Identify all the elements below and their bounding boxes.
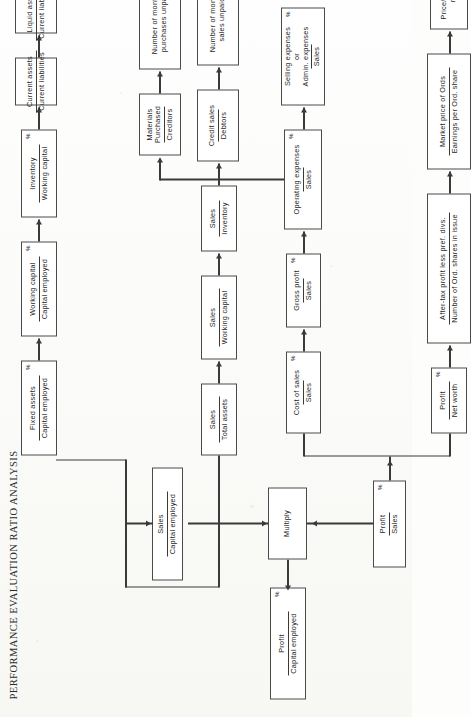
- percent-sign: %: [24, 133, 31, 139]
- numerator: Working capital: [29, 260, 38, 318]
- arrow-right: [216, 253, 222, 258]
- numerator: Sales: [157, 512, 166, 536]
- node-months-purchases-unpaid[interactable]: Number of months' purchases unpaid: [139, 0, 181, 69]
- connector-profit-sales-up: [303, 432, 304, 456]
- numerator: Profit: [379, 512, 388, 535]
- percent-sign: %: [289, 257, 296, 263]
- numerator: Cost of sales: [293, 367, 302, 416]
- node-current-assets-current-liabilities[interactable]: Current assets Current liabilities: [15, 57, 57, 105]
- denominator: Number of Ord. shares in issue: [449, 212, 460, 324]
- percent-sign: %: [289, 355, 296, 361]
- arrow-right: [301, 231, 307, 236]
- denominator: Net worth: [449, 381, 460, 418]
- arrow-right: [387, 460, 393, 465]
- denominator: Sales: [389, 512, 400, 536]
- node-profit-capital-employed[interactable]: % Profit Capital employed: [270, 587, 306, 699]
- arrow-right: [447, 345, 453, 350]
- arrow-right: [216, 67, 222, 72]
- node-credit-sales-debtors[interactable]: Credit sales Debtors: [197, 89, 239, 161]
- percent-sign: %: [24, 364, 31, 370]
- numerator: Operating expenses: [293, 142, 302, 216]
- numerator-line-2: Purchased: [154, 103, 163, 144]
- node-price-earnings-calc[interactable]: Market price of Ords Earnings per Ord. s…: [427, 53, 471, 169]
- arrow-up-to-multiply: [312, 520, 317, 526]
- arrow-right: [36, 338, 42, 343]
- node-selling-admin-expenses-sales[interactable]: % Selling expenses or Admin. expenses Sa…: [281, 7, 325, 105]
- arrow-right: [447, 171, 453, 176]
- node-operating-expenses-sales[interactable]: % Operating expenses Sales: [284, 129, 322, 229]
- numerator: Fixed assets: [29, 384, 38, 432]
- scan-speck: [36, 640, 39, 642]
- percent-sign: %: [287, 133, 294, 139]
- node-sales-working-capital[interactable]: Sales Working capital: [201, 275, 237, 359]
- connector-sales-branch-right: [56, 459, 126, 460]
- arrow-right: [157, 157, 163, 162]
- arrow-right: [447, 31, 453, 36]
- numerator: Inventory: [29, 155, 38, 191]
- node-months-sales-unpaid[interactable]: Number of months' sales unpaid: [197, 0, 239, 65]
- arrow-right: [216, 163, 222, 168]
- arrow-right: [301, 329, 307, 334]
- line-2: purchases unpaid: [160, 0, 169, 54]
- denominator: Creditors: [164, 106, 175, 142]
- arrow-right: [301, 107, 307, 112]
- node-fixed-assets-capital-employed[interactable]: % Fixed assets Capital employed: [21, 360, 57, 455]
- node-sales-total-assets[interactable]: Sales Total assets: [201, 383, 237, 455]
- connector-sales-branch-bus: [125, 459, 126, 587]
- node-sales-capital-employed[interactable]: Sales Capital employed: [152, 467, 183, 580]
- denominator: Earnings per Ord. share: [449, 67, 460, 155]
- node-price-earnings-ratio[interactable]: Price/earnings ratio: [430, 0, 468, 29]
- numerator: Liquid assets: [26, 0, 35, 34]
- denominator: Sales: [303, 278, 314, 302]
- node-profit-sales[interactable]: % Profit Sales: [373, 480, 406, 567]
- percent-sign: %: [434, 371, 441, 377]
- denominator: Capital employed: [39, 375, 50, 439]
- arrow-down-to-sales-box: [146, 520, 151, 526]
- scan-speck: [120, 92, 122, 94]
- node-gross-profit-sales[interactable]: % Gross profit Sales: [286, 253, 321, 327]
- node-inventory-working-capital[interactable]: % Inventory Working capital: [21, 129, 57, 217]
- node-liquid-assets-current-liabilities[interactable]: Liquid assets Current liabilities: [15, 0, 57, 33]
- numerator: Gross profit: [293, 268, 302, 313]
- line-2: sales unpaid: [218, 0, 227, 43]
- numerator: Current assets: [26, 54, 35, 109]
- node-materials-purchased-creditors[interactable]: Materials Purchased Creditors: [139, 93, 181, 155]
- connector-profit-sales-down: [449, 432, 450, 456]
- scan-speck: [330, 265, 333, 267]
- page-title: PERFORMANCE EVALUATION RATIO ANALYSIS: [8, 450, 19, 699]
- denominator: Capital employed: [288, 611, 299, 675]
- connector-profit-sales-bus: [304, 455, 450, 456]
- arrow-right: [216, 361, 222, 366]
- denominator: Current liabilities: [36, 0, 47, 40]
- numerator: Profit: [439, 389, 448, 412]
- numerator: Credit sales: [208, 102, 217, 148]
- node-profit-net-worth[interactable]: % Profit Net worth: [431, 367, 467, 433]
- connector-multiply-to-root: [287, 559, 288, 587]
- denominator: Working capital: [219, 288, 230, 346]
- node-sales-inventory[interactable]: Sales Inventory: [201, 185, 237, 251]
- numerator: Sales: [209, 206, 218, 230]
- denominator: Sales: [303, 380, 314, 404]
- line-2: ratio: [449, 0, 458, 4]
- node-working-capital-capital-employed[interactable]: % Working capital Capital employed: [21, 241, 57, 336]
- numerator: Market price of Ords: [439, 73, 448, 148]
- denominator: Sales: [303, 167, 314, 191]
- numerator: After-tax profit less pref. divs.: [439, 215, 448, 322]
- percent-sign: %: [284, 11, 291, 17]
- denominator: Working capital: [39, 144, 50, 202]
- scan-speck: [250, 505, 254, 508]
- denominator: Capital employed: [39, 256, 50, 320]
- connector-operating-up: [160, 178, 284, 179]
- node-multiply[interactable]: Multiply: [268, 487, 307, 559]
- label: Multiply: [283, 508, 292, 539]
- arrow-right: [36, 219, 42, 224]
- connector-sales-branch-left: [125, 586, 219, 587]
- node-cost-of-sales-sales[interactable]: % Cost of sales Sales: [286, 351, 321, 433]
- numerator: Sales: [209, 407, 218, 431]
- node-earnings-per-share[interactable]: After-tax profit less pref. divs. Number…: [427, 193, 471, 343]
- denominator: Total assets: [219, 396, 230, 442]
- arrow-right: [157, 71, 163, 76]
- denominator: Debtors: [218, 109, 229, 140]
- connector-multiply-up: [188, 522, 268, 523]
